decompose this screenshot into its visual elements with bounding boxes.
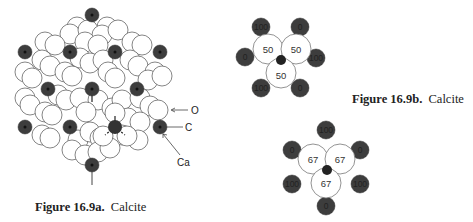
label-carbon: C <box>185 122 192 133</box>
calcium-value: 100 <box>319 125 333 135</box>
oxygen-value: 67 <box>335 154 346 165</box>
calcium-value: 100 <box>285 179 299 189</box>
caption-title: Calcite <box>429 92 464 106</box>
oxygen-value: 50 <box>263 44 274 55</box>
caption-number: Figure 16.9b. <box>352 92 422 106</box>
oxygen-value: 67 <box>321 178 332 189</box>
calcium-value: 0 <box>243 52 248 62</box>
caption-title: Calcite <box>111 200 146 214</box>
diagram-c: 67 67 67 100 0 0 100 100 0 <box>283 121 369 215</box>
caption-number: Figure 16.9a. <box>35 200 105 214</box>
oxygen-value: 50 <box>291 44 302 55</box>
label-oxygen: O <box>191 105 199 116</box>
carbon-atom <box>108 120 122 134</box>
calcium-value: 100 <box>353 179 367 189</box>
calcium-value: 100 <box>254 22 268 32</box>
calcium-value: 0 <box>358 145 363 155</box>
calcium-value: 0 <box>290 145 295 155</box>
calcium-value: 0 <box>324 201 329 211</box>
calcium-value: 0 <box>298 83 303 93</box>
calcium-value: 100 <box>254 83 268 93</box>
calcium-value: 0 <box>298 22 303 32</box>
calcium-value: 100 <box>309 53 323 63</box>
diagram-b: 50 50 50 100 0 0 100 100 0 <box>236 18 325 97</box>
oxygen-value: 50 <box>276 70 287 81</box>
figure-b-caption: Figure 16.9b. Calcite <box>352 92 464 107</box>
calcite-diagrams: O C Ca 50 50 50 100 0 0 100 100 0 <box>0 0 473 222</box>
label-calcium: Ca <box>177 157 190 168</box>
oxygen-value: 67 <box>308 154 319 165</box>
figure-a-caption: Figure 16.9a. Calcite <box>35 200 146 215</box>
